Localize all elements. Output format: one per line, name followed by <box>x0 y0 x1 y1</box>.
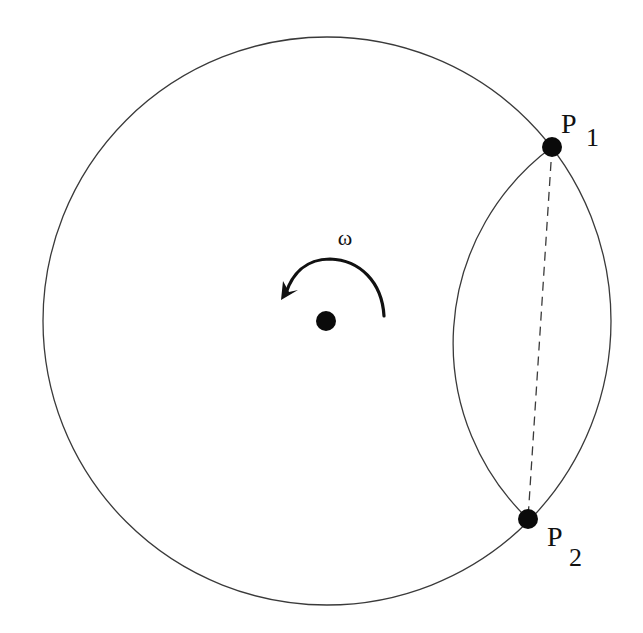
point-p2 <box>518 509 538 529</box>
center-point <box>316 311 336 331</box>
point-p1-label: P <box>561 108 577 139</box>
point-p2-label: P <box>547 521 563 552</box>
point-p2-subscript: 2 <box>569 543 582 572</box>
angular-velocity-label: ω <box>338 225 352 250</box>
inner-arc-path <box>453 147 552 519</box>
rotation-arrow-icon <box>286 259 384 316</box>
rotating-disk-diagram: ω P 1 P 2 <box>0 0 643 633</box>
point-p1 <box>542 137 562 157</box>
point-p1-subscript: 1 <box>586 123 599 152</box>
dashed-chord-line <box>528 147 552 519</box>
